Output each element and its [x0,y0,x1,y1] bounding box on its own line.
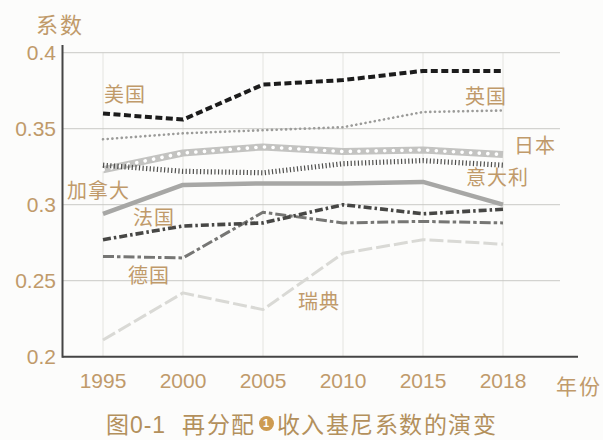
series-label-germany: 德国 [128,265,170,287]
y-tick-label-0.4: 0.4 [27,41,57,64]
y-tick-label-0.2: 0.2 [27,345,56,368]
y-tick-label-0.25: 0.25 [15,269,56,292]
y-tick-label-0.3: 0.3 [27,193,56,216]
series-line-italy [103,161,503,173]
series-line-usa [103,71,503,120]
y-tick-label-0.35: 0.35 [15,117,56,140]
x-tick-label-2000: 2000 [160,369,207,392]
series-line-sweden [103,240,503,340]
figure-number: 图0-1 [106,412,166,438]
caption-text-after: 收入基尼系数的演变 [277,412,498,438]
x-axis-title: 年份 [556,370,602,400]
caption-text-before: 再分配 [182,412,256,438]
footnote-1-badge: 1 [259,416,274,431]
x-tick-label-2010: 2010 [320,369,367,392]
series-label-sweden: 瑞典 [298,291,340,313]
series-label-uk: 英国 [465,86,507,108]
x-tick-label-2005: 2005 [240,369,287,392]
series-label-canada: 加拿大 [67,179,130,202]
series-label-japan: 日本 [514,135,556,157]
series-label-usa: 美国 [104,84,146,106]
series-line-uk [103,111,503,140]
x-tick-label-1995: 1995 [80,369,127,392]
x-tick-label-2018: 2018 [480,369,527,392]
y-axis-title: 系数 [36,7,84,39]
x-tick-label-2015: 2015 [400,369,447,392]
series-label-france: 法国 [133,207,175,229]
figure-caption: 图0-1再分配1收入基尼系数的演变 [0,406,603,440]
series-label-italy: 意大利 [466,167,529,189]
